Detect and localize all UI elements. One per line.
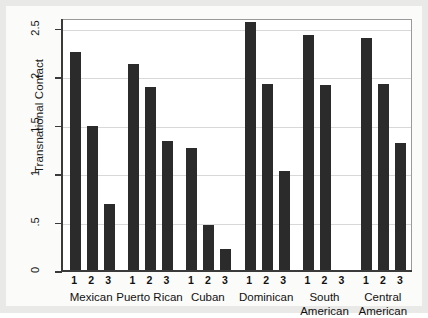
x-tick-label: 3 <box>276 274 290 286</box>
x-tick-label: 2 <box>201 274 215 286</box>
x-tick-label: 3 <box>101 274 115 286</box>
x-tick-label: 1 <box>126 274 140 286</box>
x-tick-label: 3 <box>335 274 349 286</box>
x-axis-line <box>61 270 412 272</box>
plot-area <box>62 19 412 271</box>
bar <box>361 38 372 270</box>
x-tick-label: 1 <box>242 274 256 286</box>
x-tick-label: 1 <box>67 274 81 286</box>
bar <box>262 84 273 270</box>
bar <box>145 87 156 270</box>
x-tick-label: 3 <box>393 274 407 286</box>
y-tick-label: 2.5 <box>29 15 41 41</box>
x-tick-label: 1 <box>301 274 315 286</box>
x-tick-label: 2 <box>376 274 390 286</box>
group-label: CentralAmerican <box>342 290 424 318</box>
gridline <box>63 78 411 79</box>
bar <box>104 204 115 270</box>
y-tick-label: 0 <box>29 257 41 283</box>
y-tick-mark <box>55 271 62 273</box>
x-tick-label: 1 <box>184 274 198 286</box>
bar <box>70 52 81 270</box>
y-tick-label: 1.5 <box>29 112 41 138</box>
y-axis-line <box>61 19 63 271</box>
y-tick-label: 2 <box>29 63 41 89</box>
bar <box>162 141 173 270</box>
x-tick-label: 2 <box>259 274 273 286</box>
gridline <box>63 175 411 176</box>
x-tick-label: 1 <box>359 274 373 286</box>
bar <box>220 249 231 270</box>
gridline <box>63 127 411 128</box>
bar <box>395 143 406 270</box>
y-tick-mark <box>55 126 62 128</box>
gridline <box>63 224 411 225</box>
bar <box>303 35 314 270</box>
y-tick-label: .5 <box>29 209 41 235</box>
y-tick-mark <box>55 174 62 176</box>
x-tick-label: 2 <box>318 274 332 286</box>
x-tick-label: 2 <box>84 274 98 286</box>
chart-canvas: Transnational Contact 0.511.522.5 123123… <box>6 6 422 306</box>
bar <box>378 84 389 270</box>
y-tick-mark <box>55 29 62 31</box>
gridline <box>63 30 411 31</box>
y-tick-mark <box>55 223 62 225</box>
bar <box>128 64 139 270</box>
bar <box>320 85 331 270</box>
x-tick-label: 3 <box>218 274 232 286</box>
bar <box>87 126 98 270</box>
bar <box>186 148 197 270</box>
x-tick-label: 3 <box>160 274 174 286</box>
y-tick-mark <box>55 77 62 79</box>
y-tick-label: 1 <box>29 160 41 186</box>
bar <box>203 225 214 270</box>
bar <box>245 22 256 270</box>
bar <box>279 171 290 270</box>
x-tick-label: 2 <box>143 274 157 286</box>
